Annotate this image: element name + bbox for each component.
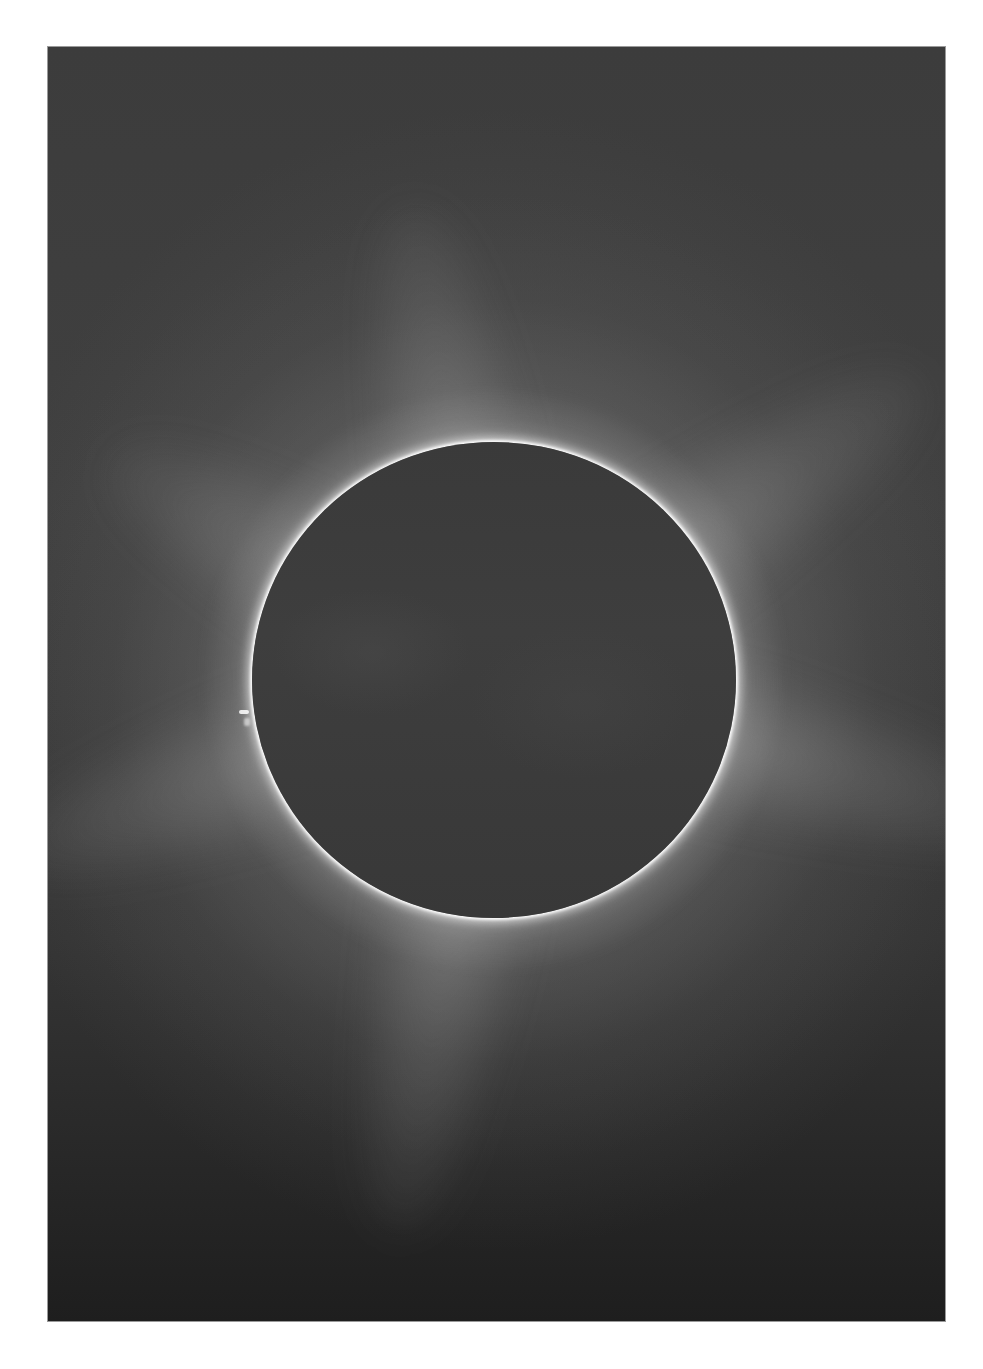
solar-prominence: [244, 718, 250, 726]
page: [0, 0, 983, 1369]
moon-disk: [252, 442, 736, 918]
eclipse-photograph: [47, 46, 945, 1321]
solar-prominence: [239, 710, 249, 714]
